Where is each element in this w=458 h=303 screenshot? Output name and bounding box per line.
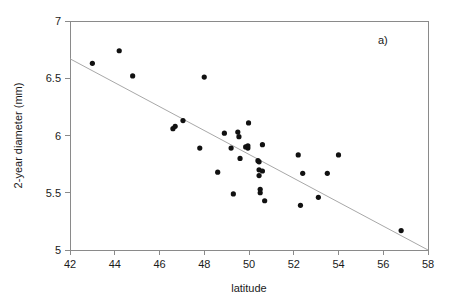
x-axis-tick-label: 52 [288, 258, 300, 270]
x-axis-tick-label: 56 [377, 258, 389, 270]
data-point [256, 173, 261, 178]
y-axis-title: 2-year diameter (mm) [12, 83, 24, 189]
y-axis-tick-label: 6.5 [46, 72, 61, 84]
data-point [300, 171, 305, 176]
x-axis-tick-label: 48 [198, 258, 210, 270]
data-point [260, 142, 265, 147]
data-point [260, 168, 265, 173]
y-axis-tick-label: 7 [55, 15, 61, 27]
data-point [222, 131, 227, 136]
data-point [197, 145, 202, 150]
data-point [246, 120, 251, 125]
x-axis-tick-label: 50 [243, 258, 255, 270]
panel-label: a) [378, 34, 388, 46]
data-point [90, 61, 95, 66]
data-point [298, 203, 303, 208]
data-point [215, 170, 220, 175]
x-axis-tick-label: 46 [153, 258, 165, 270]
x-axis-title: latitude [231, 282, 266, 294]
data-point [237, 156, 242, 161]
data-point [245, 143, 250, 148]
axis-frame-left-bottom [70, 21, 428, 250]
y-axis-tick-label: 6 [55, 130, 61, 142]
regression-line [70, 59, 428, 250]
data-point [202, 75, 207, 80]
axis-frame-top-right [70, 21, 428, 250]
figure-panel-a: 42444648505254565855.566.57latitude2-yea… [0, 0, 458, 303]
data-point [180, 118, 185, 123]
x-axis-tick-label: 44 [109, 258, 121, 270]
x-axis-tick-label: 58 [422, 258, 434, 270]
data-point [256, 159, 261, 164]
data-point [262, 198, 267, 203]
x-axis-tick-label: 42 [64, 258, 76, 270]
data-point [117, 48, 122, 53]
data-point [316, 195, 321, 200]
data-point [336, 152, 341, 157]
data-point [173, 124, 178, 129]
data-point [296, 152, 301, 157]
data-point [130, 73, 135, 78]
scatter-plot: 42444648505254565855.566.57latitude2-yea… [0, 0, 458, 303]
x-axis-tick-label: 54 [332, 258, 344, 270]
data-point [229, 145, 234, 150]
data-point [325, 171, 330, 176]
y-axis-tick-label: 5.5 [46, 187, 61, 199]
data-point [231, 191, 236, 196]
data-point [235, 129, 240, 134]
data-point [399, 228, 404, 233]
data-point [258, 190, 263, 195]
y-axis-tick-label: 5 [55, 244, 61, 256]
data-point [236, 134, 241, 139]
